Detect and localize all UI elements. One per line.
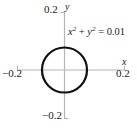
plot-canvas <box>0 0 137 129</box>
y-axis-max-tick-label: 0.2 <box>44 4 58 15</box>
y-axis-min-tick-label: −0.2 <box>42 110 62 121</box>
equation-value: 0.01 <box>107 26 125 37</box>
equation-plus-operator: + <box>79 26 85 37</box>
equation-equals-operator: = <box>98 26 104 37</box>
x-axis-max-tick-label: 0.2 <box>116 68 130 79</box>
equation-annotation: x2 + y2 = 0.01 <box>68 27 125 38</box>
x-axis-min-tick-label: −0.2 <box>2 68 22 79</box>
equation-x-exponent: 2 <box>73 25 77 33</box>
equation-y-exponent: 2 <box>92 25 96 33</box>
y-axis-name-label: y <box>65 2 69 12</box>
plot-figure: 0.2 −0.2 −0.2 0.2 y x x2 + y2 = 0.01 <box>0 0 137 129</box>
x-axis-name-label: x <box>122 57 126 67</box>
